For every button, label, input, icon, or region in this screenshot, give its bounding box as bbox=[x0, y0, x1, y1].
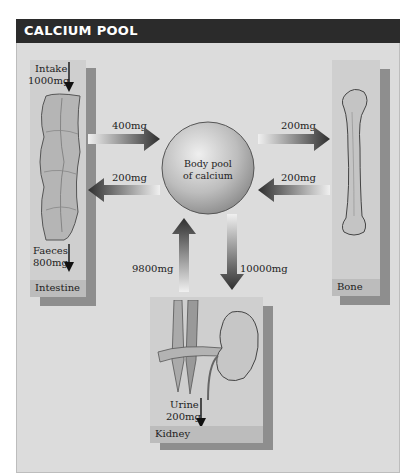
intake-label: Intake bbox=[35, 63, 67, 75]
kidney-illustration bbox=[152, 300, 262, 400]
arrow-right-intestine-to-pool-icon bbox=[88, 127, 160, 151]
body-pool-label-line1: Body pool bbox=[184, 158, 232, 170]
intestine-illustration bbox=[36, 92, 84, 242]
intake-arrow-icon bbox=[64, 62, 74, 92]
body-pool-label-line2: of calcium bbox=[183, 170, 233, 182]
flow-pool-to-kidney-label: 10000mg bbox=[240, 263, 288, 275]
arrow-down-pool-to-kidney-icon bbox=[220, 214, 244, 290]
bone-panel-shadow bbox=[380, 69, 390, 305]
flow-kidney-to-pool-label: 9800mg bbox=[132, 263, 173, 275]
faeces-label: Faeces bbox=[33, 245, 68, 257]
arrow-up-kidney-to-pool-icon bbox=[172, 218, 196, 292]
kidney-panel-shadow bbox=[263, 306, 273, 450]
faeces-arrow-icon bbox=[64, 244, 74, 272]
arrow-left-pool-to-intestine-icon bbox=[88, 178, 160, 202]
bone-panel-shadow-bottom bbox=[340, 295, 390, 305]
diagram-title: CALCIUM POOL bbox=[24, 23, 138, 38]
kidney-panel-label: Kidney bbox=[150, 426, 263, 443]
title-bar: CALCIUM POOL bbox=[16, 19, 400, 43]
intestine-panel-shadow-bottom bbox=[40, 296, 96, 306]
bone-panel-label: Bone bbox=[332, 279, 380, 296]
bone-illustration bbox=[338, 88, 374, 238]
arrow-right-pool-to-bone-icon bbox=[258, 127, 330, 151]
arrow-left-bone-to-pool-icon bbox=[258, 178, 330, 202]
faeces-value: 800mg bbox=[33, 257, 68, 269]
urine-arrow-icon bbox=[196, 398, 206, 428]
intestine-panel-label: Intestine bbox=[30, 280, 86, 297]
urine-label: Urine bbox=[170, 399, 199, 411]
